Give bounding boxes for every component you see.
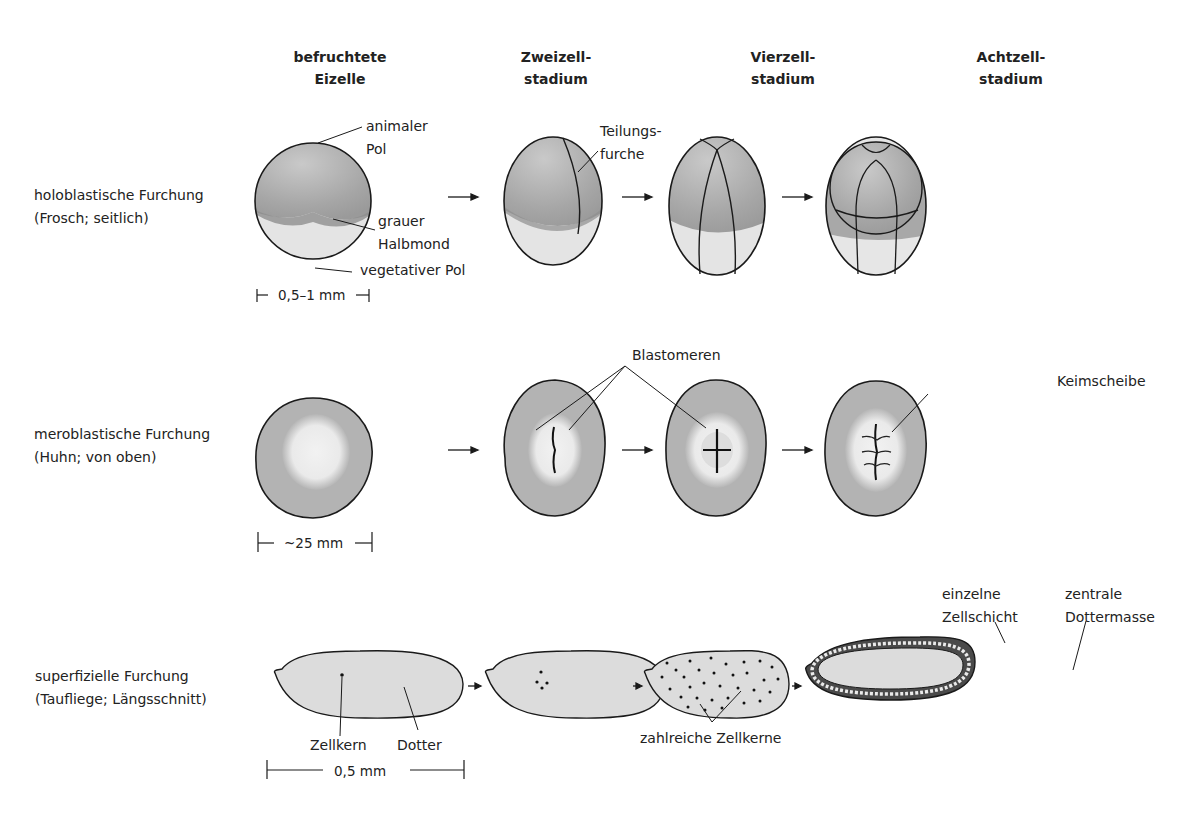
label-many-nuclei: zahlreiche Zellkerne: [640, 727, 781, 750]
label-blastomeres: Blastomeren: [632, 344, 721, 367]
label-line: einzelne: [942, 583, 1018, 606]
label-central-yolk-mass: zentrale Dottermasse: [1065, 583, 1155, 629]
scale-label-fly: 0,5 mm: [334, 760, 386, 783]
label-line: furche: [600, 143, 662, 166]
label-line: grauer: [378, 210, 450, 233]
label-line: Halbmond: [378, 233, 450, 256]
label-line: Teilungs-: [600, 120, 662, 143]
label-germinal-disc: Keimscheibe: [1057, 370, 1146, 393]
label-line: Pol: [366, 138, 428, 161]
label-line: zentrale: [1065, 583, 1155, 606]
label-line: Zellschicht: [942, 606, 1018, 629]
label-line: Dottermasse: [1065, 606, 1155, 629]
fly-blastoderm-stage: [806, 637, 975, 700]
chicken-fertilized-egg: [256, 398, 372, 518]
frog-four-cell: [660, 130, 780, 280]
label-single-cell-layer: einzelne Zellschicht: [942, 583, 1018, 629]
label-yolk: Dotter: [397, 734, 442, 757]
label-gray-crescent: grauer Halbmond: [378, 210, 450, 256]
label-vegetal-pole: vegetativer Pol: [360, 259, 465, 282]
label-line: animaler: [366, 115, 428, 138]
chicken-eight-cell: [825, 381, 926, 516]
label-cleavage-furrow: Teilungs- furche: [600, 120, 662, 166]
fly-many-nuclei-stage: [644, 651, 789, 718]
scale-label-chicken: ~25 mm: [284, 532, 343, 555]
label-nucleus: Zellkern: [310, 734, 367, 757]
chicken-two-cell: [504, 380, 605, 516]
fly-fertilized-egg: [274, 651, 463, 718]
cleavage-diagram: [0, 0, 1188, 817]
label-animal-pole: animaler Pol: [366, 115, 428, 161]
frog-eight-cell: [820, 130, 940, 280]
frog-two-cell: [500, 130, 610, 270]
frog-fertilized-egg: [250, 140, 380, 270]
chicken-four-cell: [666, 380, 766, 516]
scale-label-frog: 0,5–1 mm: [278, 284, 345, 307]
